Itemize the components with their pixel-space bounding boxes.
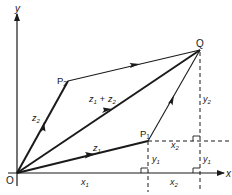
x1-label: x1 — [80, 177, 89, 188]
z1-label: z1 — [92, 143, 101, 154]
y-axis-label: y — [14, 3, 21, 14]
z1-plus-z2-label: z1+z2 — [88, 94, 117, 105]
vector-p2-to-q — [68, 50, 200, 81]
z2-label: z2 — [31, 113, 41, 124]
point-q-label: Q — [196, 38, 204, 49]
vector-z1-plus-z2 — [17, 50, 200, 173]
vector-z2 — [17, 81, 68, 173]
vector-z1 — [17, 141, 148, 173]
y1-right-label: y1 — [202, 154, 211, 165]
point-p1-label: P1 — [140, 128, 150, 140]
origin-label: O — [6, 175, 14, 186]
x2-top-label: x2 — [170, 140, 180, 151]
vector-addition-diagram: O Q P2 P1 x y z1 z2 z1+z2 x1 x2 x2 y1 y1… — [0, 0, 232, 195]
x-axis-label: x — [225, 168, 232, 179]
vector-p1-to-q — [148, 50, 200, 141]
y2-label: y2 — [202, 94, 212, 105]
construction-lines — [148, 52, 230, 192]
x2-bottom-label: x2 — [169, 177, 179, 188]
point-p2-label: P2 — [57, 75, 67, 87]
y1-left-label: y1 — [151, 154, 160, 165]
